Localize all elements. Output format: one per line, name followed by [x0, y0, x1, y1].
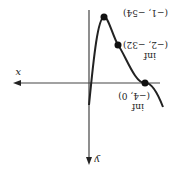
point-inflection-2 — [142, 80, 149, 87]
label-local-max: (−1, −54) — [123, 8, 168, 18]
y-axis: y — [86, 10, 101, 166]
label-infl-2-tag: inf — [131, 102, 144, 112]
y-axis-arrow-icon — [86, 157, 92, 165]
x-axis: x — [13, 68, 160, 86]
x-axis-label: x — [15, 68, 21, 79]
y-axis-label: y — [94, 155, 101, 166]
label-infl-1-tag: inf — [143, 51, 156, 61]
label-infl-1-coord: (−2, −32) — [123, 40, 168, 50]
label-infl-2-coord: (−4, 0) — [118, 91, 150, 101]
point-local-max — [101, 14, 108, 21]
graph-figure: y x (−1, −54) (−2, −32) inf (−4, 0) inf — [0, 0, 170, 174]
point-inflection-1 — [115, 42, 122, 49]
x-axis-arrow-icon — [13, 80, 21, 86]
